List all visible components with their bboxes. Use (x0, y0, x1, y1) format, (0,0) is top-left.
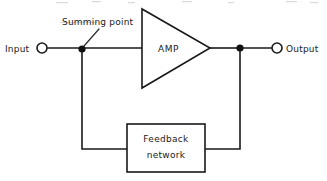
output-label: Output (286, 44, 319, 54)
summing-point-dot-icon (78, 45, 85, 52)
wire-output-to-feedback-input (205, 48, 240, 149)
feedback-network-box (127, 124, 205, 172)
input-label: Input (5, 44, 30, 54)
diagram-svg: Input Output Summing point AMP Feedback … (0, 0, 327, 181)
block-diagram-canvas: Input Output Summing point AMP Feedback … (0, 0, 327, 181)
amplifier-label: AMP (158, 44, 179, 54)
wire-feedback-output-to-summing-point (82, 49, 127, 149)
feedback-network-label-line1: Feedback (143, 134, 189, 144)
output-terminal-icon (272, 43, 282, 53)
input-terminal-icon (37, 43, 47, 53)
output-junction-dot-icon (236, 44, 243, 51)
summing-point-leader-line (84, 29, 99, 46)
feedback-network-label-line2: network (147, 150, 186, 160)
summing-point-label: Summing point (62, 17, 134, 27)
